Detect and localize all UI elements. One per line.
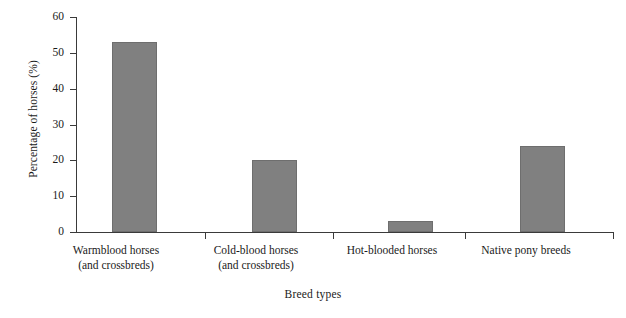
x-axis-line bbox=[76, 232, 614, 233]
x-axis-title: Breed types bbox=[0, 288, 626, 300]
x-category-label-1: Cold-blood horses (and crossbreds) bbox=[182, 243, 330, 273]
bar-cold-blood-horses bbox=[252, 160, 297, 232]
y-tick-label: 40 bbox=[30, 83, 64, 95]
y-tick-label: 10 bbox=[30, 190, 64, 202]
y-tick-mark bbox=[70, 160, 76, 161]
x-category-line-2: (and crossbreds) bbox=[182, 258, 330, 273]
x-category-label-3: Native pony breeds bbox=[450, 243, 602, 258]
bar-native-pony-breeds bbox=[520, 146, 565, 232]
x-category-line-1: Hot-blooded horses bbox=[347, 244, 437, 256]
x-tick-mark bbox=[205, 233, 206, 239]
x-category-line-2: (and crossbreds) bbox=[42, 258, 190, 273]
x-category-line-1: Warmblood horses bbox=[73, 244, 159, 256]
y-tick-label: 0 bbox=[30, 226, 64, 238]
y-tick-mark bbox=[70, 53, 76, 54]
y-axis-line bbox=[76, 17, 77, 233]
x-category-line-1: Native pony breeds bbox=[481, 244, 570, 256]
y-tick-mark bbox=[70, 89, 76, 90]
x-tick-mark bbox=[333, 233, 334, 239]
bar-chart-figure: Percentage of horses (%) 60 50 40 30 20 … bbox=[0, 0, 626, 318]
y-tick-label: 50 bbox=[30, 47, 64, 59]
y-tick-mark bbox=[70, 232, 76, 233]
bar-warmblood-horses bbox=[112, 42, 157, 232]
x-tick-mark bbox=[465, 233, 466, 239]
bar-hot-blooded-horses bbox=[388, 221, 433, 232]
y-tick-mark bbox=[70, 125, 76, 126]
x-category-line-1: Cold-blood horses bbox=[214, 244, 299, 256]
y-tick-mark bbox=[70, 196, 76, 197]
y-tick-label: 60 bbox=[30, 11, 64, 23]
x-tick-mark bbox=[613, 233, 614, 239]
plot-area: 60 50 40 30 20 10 0 bbox=[76, 17, 614, 233]
y-tick-mark bbox=[70, 17, 76, 18]
x-category-label-0: Warmblood horses (and crossbreds) bbox=[42, 243, 190, 273]
y-tick-label: 20 bbox=[30, 155, 64, 167]
x-category-label-2: Hot-blooded horses bbox=[318, 243, 466, 258]
y-tick-label: 30 bbox=[30, 119, 64, 131]
